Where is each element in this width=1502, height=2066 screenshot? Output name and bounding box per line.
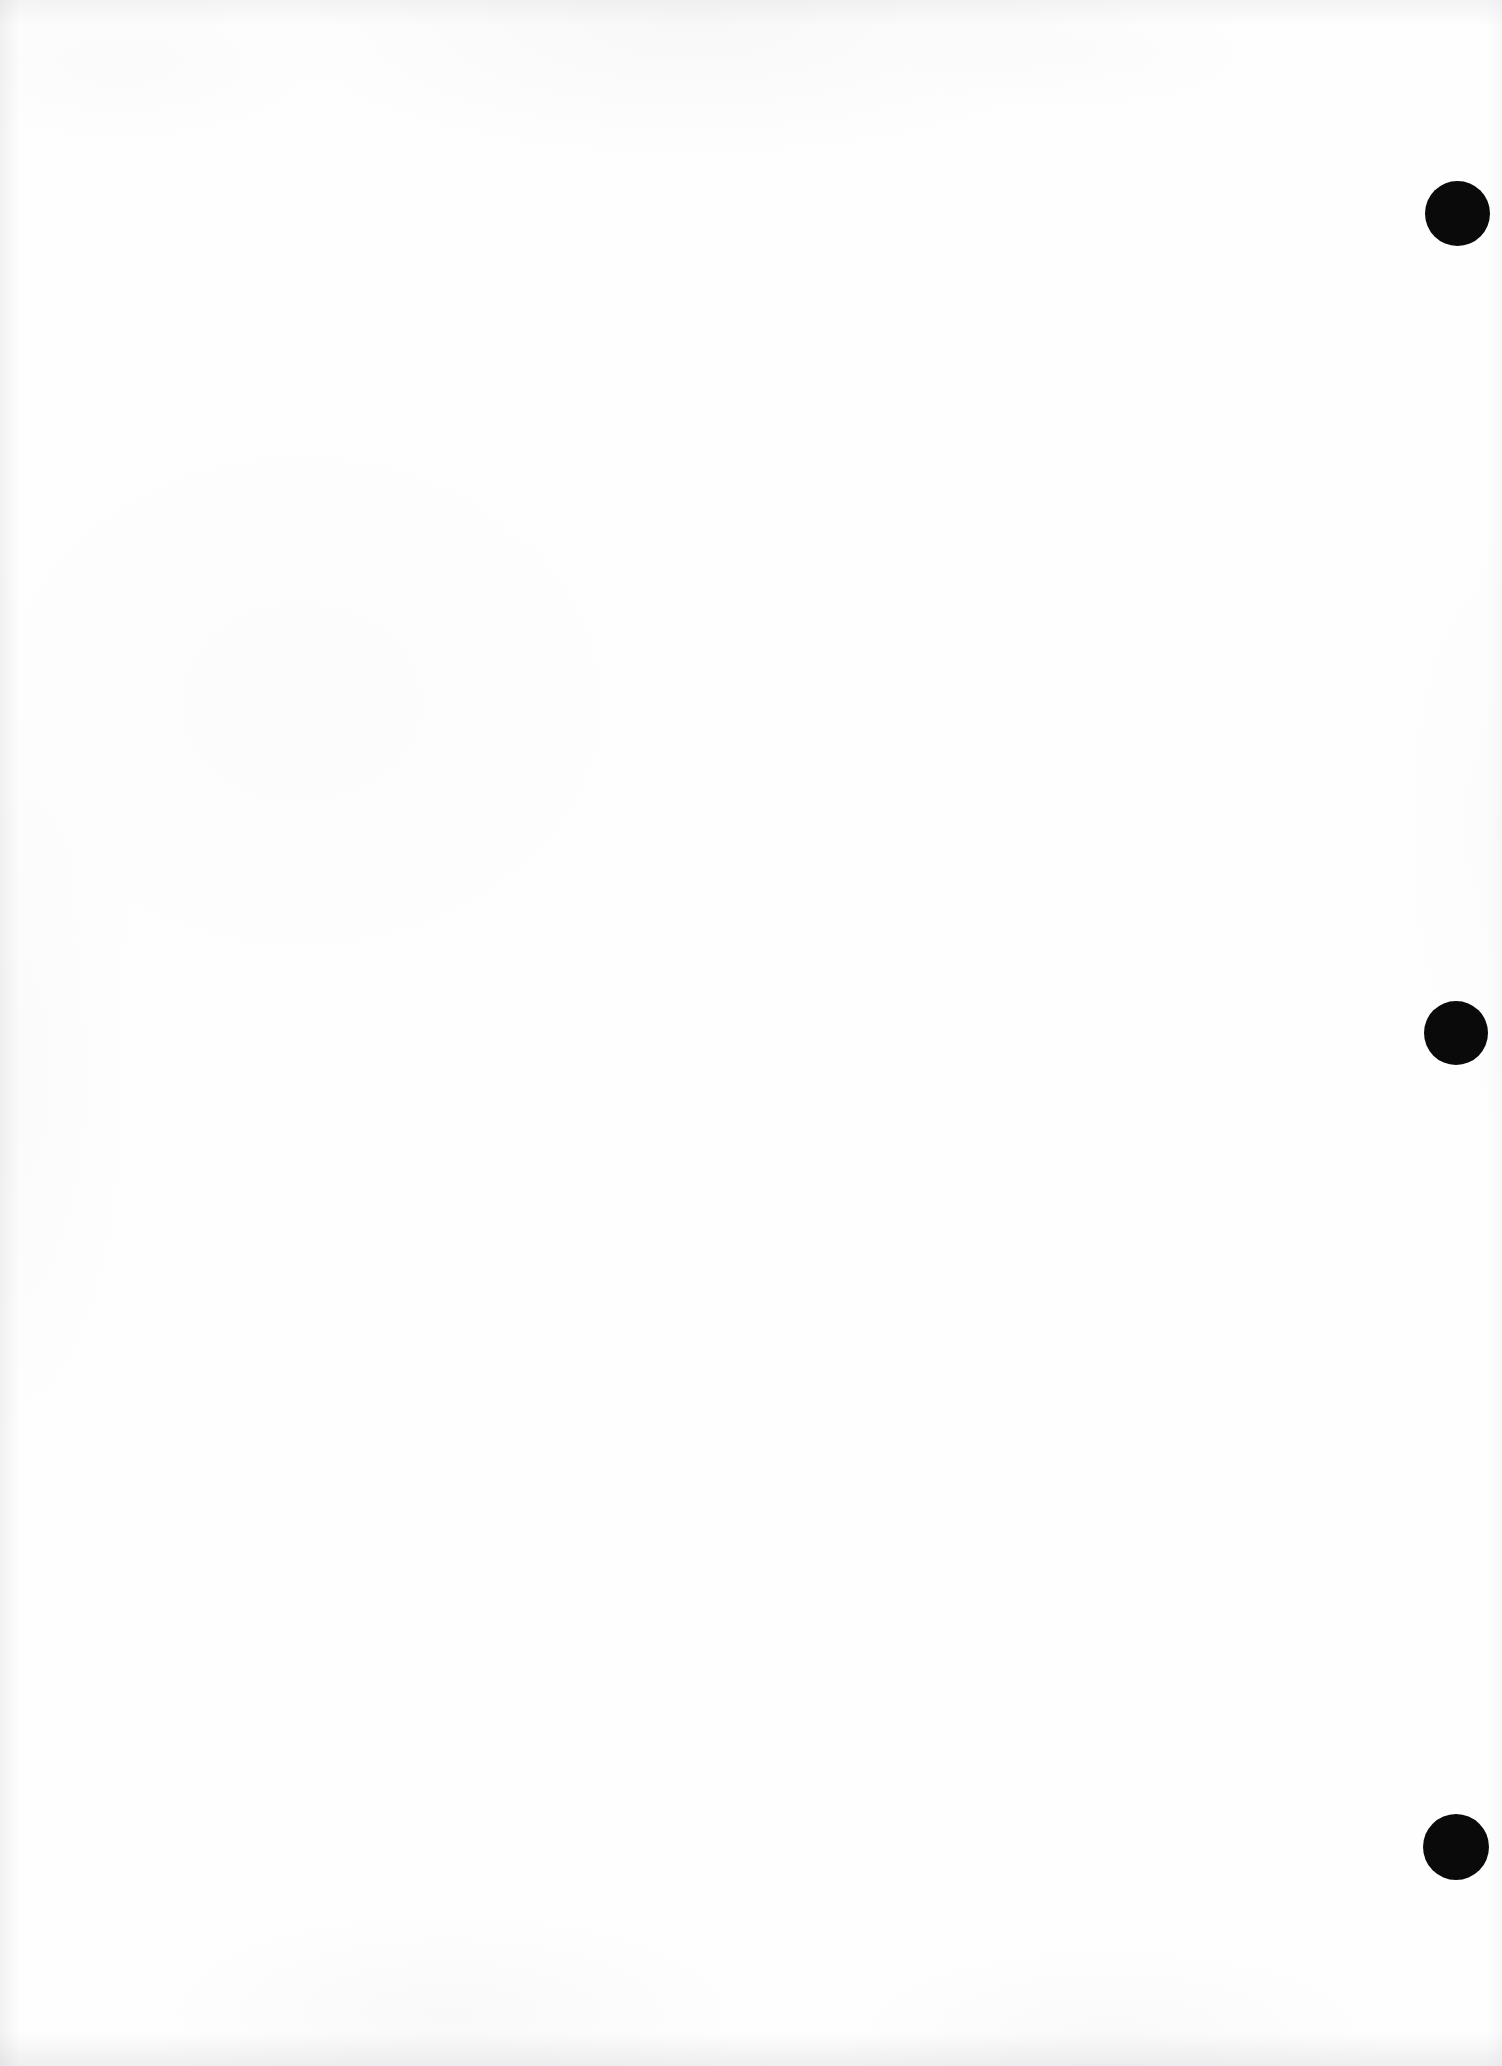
registration-dot-top: [1425, 181, 1490, 246]
registration-dot-bottom: [1423, 1814, 1489, 1880]
page-body-text: [120, 150, 1320, 1910]
registration-dot-middle: [1424, 1001, 1488, 1065]
scanned-page: [0, 0, 1502, 2066]
